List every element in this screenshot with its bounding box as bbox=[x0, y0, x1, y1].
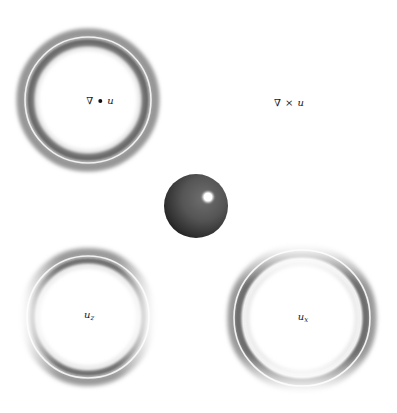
label-curl: ∇×u bbox=[274, 98, 304, 108]
label-ux: ux bbox=[298, 312, 308, 324]
subscript-z: z bbox=[90, 314, 94, 322]
dot-operator bbox=[98, 99, 102, 103]
figure: ∇u ∇×u uz ux bbox=[0, 0, 397, 413]
nabla-symbol: ∇ bbox=[86, 95, 93, 106]
cross-operator: × bbox=[285, 97, 293, 108]
sphere bbox=[164, 174, 228, 238]
variable-u: u bbox=[107, 95, 113, 106]
label-uz: uz bbox=[84, 310, 94, 322]
nabla-symbol: ∇ bbox=[274, 97, 281, 108]
label-divergence: ∇u bbox=[86, 96, 113, 106]
subscript-x: x bbox=[304, 316, 308, 324]
variable-u: u bbox=[297, 97, 303, 108]
figure-graphics bbox=[0, 0, 397, 413]
